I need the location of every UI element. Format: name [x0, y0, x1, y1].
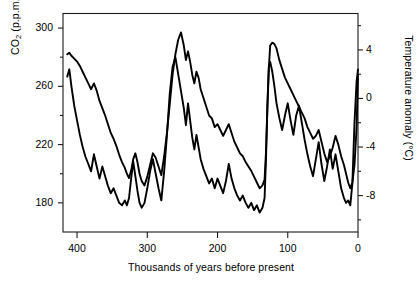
x-axis-ticks: [77, 232, 358, 238]
y-left-tick-label: 300: [13, 21, 53, 33]
data-series-group: [67, 32, 358, 212]
x-tick-label: 100: [268, 242, 308, 254]
co2-temperature-chart: CO2 (p.p.m.) Temperature anomaly (°C) Th…: [0, 0, 420, 290]
y-right-tick-label: -8: [366, 189, 406, 201]
x-tick-label: 300: [127, 242, 167, 254]
y-axis-left-title: CO2 (p.p.m.): [9, 0, 23, 85]
x-axis-title: Thousands of years before present: [63, 261, 359, 273]
x-tick-label: 200: [198, 242, 238, 254]
left-axis-ticks: [58, 28, 63, 203]
y-left-tick-label: 220: [13, 138, 53, 150]
y-left-tick-label: 180: [13, 196, 53, 208]
right-axis-ticks: [358, 26, 363, 220]
y-right-tick-label: -4: [366, 140, 406, 152]
y-left-tick-label: 260: [13, 79, 53, 91]
y-right-tick-label: 4: [366, 43, 406, 55]
x-tick-label: 0: [338, 242, 378, 254]
y-right-tick-label: 0: [366, 91, 406, 103]
x-tick-label: 400: [57, 242, 97, 254]
